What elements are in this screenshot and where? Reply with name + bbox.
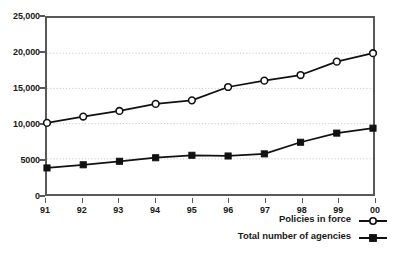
series-line [47, 53, 373, 123]
y-tick-label: 25,000 [13, 11, 40, 21]
data-point [116, 108, 123, 115]
legend-item-label: Policies in force [279, 213, 351, 224]
open-circle-marker-icon [358, 213, 388, 225]
series-line [47, 128, 373, 168]
x-tick-label: 93 [113, 205, 123, 215]
x-tick-mark [82, 198, 83, 203]
series-policies-in-force [44, 50, 377, 126]
y-tick-label: 15,000 [13, 83, 40, 93]
x-tick-label: 92 [77, 205, 87, 215]
data-point [116, 158, 122, 164]
data-point [44, 165, 50, 171]
data-point [189, 152, 195, 158]
data-point [297, 139, 303, 145]
data-point [225, 84, 232, 91]
series-layer [47, 18, 373, 194]
plot-area [45, 16, 375, 196]
data-point [80, 113, 87, 120]
legend-item-label: Total number of agencies [238, 230, 351, 241]
data-point [261, 151, 267, 157]
data-point [297, 72, 304, 79]
x-tick-mark [192, 198, 193, 203]
data-point [189, 97, 196, 104]
data-point [80, 162, 86, 168]
data-point [153, 155, 159, 161]
legend-item-policies-in-force[interactable]: Policies in force [128, 210, 388, 227]
y-tick-label: 10,000 [13, 119, 40, 129]
x-tick-mark [375, 198, 376, 203]
x-tick-mark [155, 198, 156, 203]
data-point [333, 58, 340, 65]
series-total-number-of-agencies [44, 125, 376, 171]
data-point [370, 50, 377, 57]
x-tick-mark [338, 198, 339, 203]
x-tick-label: 91 [40, 205, 50, 215]
filled-square-marker-icon [358, 230, 388, 242]
x-tick-mark [45, 198, 46, 203]
data-point [334, 130, 340, 136]
x-tick-mark [228, 198, 229, 203]
chart-container: 0500010,00015,00020,00025,000 9192939495… [0, 0, 394, 258]
data-point [370, 125, 376, 131]
y-tick-label: 5000 [20, 155, 40, 165]
y-tick-label: 20,000 [13, 47, 40, 57]
legend-item-total-number-of-agencies[interactable]: Total number of agencies [128, 227, 388, 244]
data-point [261, 77, 268, 84]
x-tick-mark [302, 198, 303, 203]
x-tick-mark [265, 198, 266, 203]
y-axis: 0500010,00015,00020,00025,000 [0, 0, 40, 212]
chart-legend: Policies in force Total number of agenci… [128, 210, 388, 244]
data-point [44, 120, 51, 127]
data-point [225, 153, 231, 159]
x-tick-mark [118, 198, 119, 203]
data-point [152, 101, 159, 108]
